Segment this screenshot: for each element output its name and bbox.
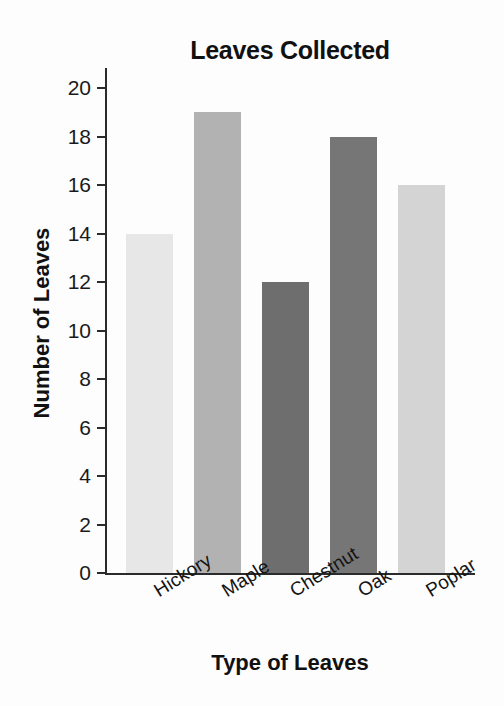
y-tick-mark: [97, 281, 106, 283]
bar-chestnut[interactable]: [262, 282, 309, 573]
y-tick-mark: [97, 184, 106, 186]
y-axis-title: Number of Leaves: [29, 183, 55, 463]
y-tick-mark: [97, 330, 106, 332]
y-tick-mark: [97, 87, 106, 89]
y-tick-label: 0: [45, 562, 91, 583]
chart-page: Leaves Collected 02468101214161820 Hicko…: [0, 0, 504, 706]
y-tick-label: 18: [45, 126, 91, 147]
x-axis-title: Type of Leaves: [105, 650, 475, 676]
y-tick-mark: [97, 233, 106, 235]
y-tick-mark: [97, 524, 106, 526]
y-tick-mark: [97, 572, 106, 574]
plot-area: 02468101214161820 HickoryMapleChestnutOa…: [0, 0, 504, 706]
bar-oak[interactable]: [330, 137, 377, 574]
y-tick-label: 20: [45, 77, 91, 98]
y-tick-mark: [97, 136, 106, 138]
y-tick-mark: [97, 427, 106, 429]
y-tick-mark: [97, 378, 106, 380]
bar-maple[interactable]: [194, 112, 241, 573]
y-tick-mark: [97, 475, 106, 477]
y-tick-label: 2: [45, 514, 91, 535]
bar-poplar[interactable]: [398, 185, 445, 573]
bar-hickory[interactable]: [126, 234, 173, 574]
y-tick-label: 4: [45, 465, 91, 486]
x-axis-line: [105, 573, 475, 575]
y-axis-line: [105, 68, 107, 575]
